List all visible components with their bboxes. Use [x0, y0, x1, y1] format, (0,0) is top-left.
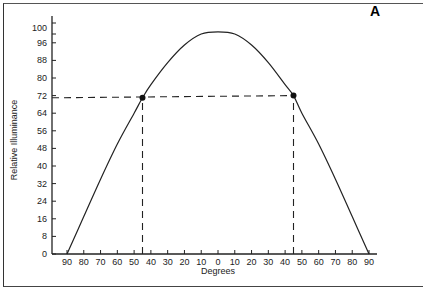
x-tick-label: 90: [364, 257, 374, 267]
illuminance-curve: [67, 32, 369, 254]
x-tick-label: 50: [297, 257, 307, 267]
x-tick-label: 30: [163, 257, 173, 267]
x-tick-label: 30: [263, 257, 273, 267]
x-tick-label: 80: [79, 257, 89, 267]
y-tick-label: 88: [37, 55, 47, 65]
y-tick-label: 100: [32, 23, 47, 33]
y-tick-label: 16: [37, 214, 47, 224]
marker-point: [140, 95, 146, 101]
y-tick-label: 96: [37, 38, 47, 48]
y-tick-label: 80: [37, 73, 47, 83]
x-tick-label: 20: [247, 257, 257, 267]
x-tick-label: 90: [62, 257, 72, 267]
y-tick-label: 8: [42, 231, 47, 241]
marker-point: [291, 93, 297, 99]
panel-label: A: [370, 3, 380, 19]
y-axis: 081624324048566472808896100: [32, 16, 56, 259]
x-tick-label: 40: [280, 257, 290, 267]
x-tick-label: 50: [129, 257, 139, 267]
x-axis: 9080706050403020100102030405060708090: [52, 247, 377, 267]
x-tick-label: 60: [112, 257, 122, 267]
x-tick-label: 70: [96, 257, 106, 267]
x-tick-label: 80: [347, 257, 357, 267]
y-tick-label: 48: [37, 143, 47, 153]
x-axis-title: Degrees: [201, 266, 236, 276]
y-tick-label: 24: [37, 196, 47, 206]
x-tick-label: 60: [314, 257, 324, 267]
reference-lines: [52, 96, 294, 254]
y-axis-title: Relative Illuminance: [9, 100, 19, 181]
y-tick-label: 64: [37, 108, 47, 118]
y-tick-label: 0: [42, 249, 47, 259]
y-tick-label: 40: [37, 161, 47, 171]
x-tick-label: 20: [179, 257, 189, 267]
y-tick-label: 72: [37, 91, 47, 101]
y-tick-label: 32: [37, 179, 47, 189]
x-tick-label: 40: [146, 257, 156, 267]
x-tick-label: 70: [330, 257, 340, 267]
y-tick-label: 56: [37, 126, 47, 136]
